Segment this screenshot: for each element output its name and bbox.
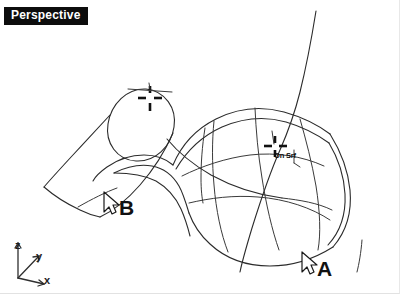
osnap-tooltip-label: On Srf: [274, 151, 296, 160]
callout-label-a: A: [317, 258, 332, 279]
perspective-viewport[interactable]: Perspective On Srf A B z y x © 2014 Ceng…: [0, 0, 400, 294]
viewport-title-tab[interactable]: Perspective: [4, 7, 88, 25]
axis-y-label: y: [36, 251, 42, 262]
axis-x-label: x: [44, 275, 50, 286]
axis-z-label: z: [15, 240, 21, 251]
callout-label-b: B: [119, 197, 134, 218]
axis-gizmo: [0, 0, 400, 294]
